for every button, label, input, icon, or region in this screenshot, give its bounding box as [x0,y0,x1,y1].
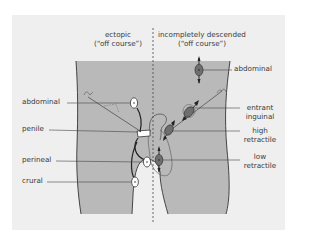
label-penile: penile [22,125,44,134]
label-retractile-high: retractile [241,136,279,145]
label-abdominal-undescended: abdominal [234,65,272,74]
label-entrant-inguinal: entrant inguinal [241,104,279,121]
label-high-retractile: high retractile [241,127,279,144]
label-perineal: perineal [22,156,51,165]
label-retractile-low: retractile [241,162,279,171]
label-inguinal: inguinal [241,113,279,122]
label-crural: crural [22,177,43,186]
label-abdominal-ectopic: abdominal [22,98,60,107]
label-low-retractile: low retractile [241,153,279,170]
testis-crural [132,177,139,187]
header-incompletely-descended: incompletely descended (“off course”) [155,30,249,48]
header-ectopic-line2: (“off course”) [88,39,148,48]
testis-perineal [143,157,150,167]
header-ectopic-line1: ectopic [88,30,148,39]
testis-abdominal-ectopic [130,98,137,108]
header-ectopic: ectopic (“off course”) [88,30,148,48]
header-incompletely-descended-line2: (“off course”) [155,39,249,48]
header-incompletely-descended-line1: incompletely descended [155,30,249,39]
penile-base [137,130,150,137]
